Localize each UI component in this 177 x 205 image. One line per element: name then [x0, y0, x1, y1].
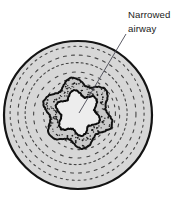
stipple-dot: [55, 118, 56, 119]
stipple-dot: [82, 139, 84, 141]
stipple-dot: [53, 101, 55, 103]
stipple-dot: [80, 82, 81, 83]
stipple-dot: [103, 120, 105, 122]
stipple-dot: [89, 88, 90, 89]
stipple-dot: [64, 95, 65, 96]
stipple-dot: [104, 90, 105, 91]
stipple-dot: [77, 137, 79, 139]
stipple-dot: [53, 108, 54, 109]
stipple-dot: [97, 94, 99, 96]
stipple-dot: [97, 111, 98, 112]
stipple-dot: [47, 105, 48, 106]
stipple-dot: [79, 138, 81, 140]
stipple-dot: [47, 99, 49, 101]
stipple-dot: [109, 125, 111, 127]
stipple-dot: [67, 85, 68, 86]
stipple-dot: [53, 109, 55, 111]
stipple-dot: [76, 83, 78, 85]
stipple-dot: [67, 88, 69, 90]
stipple-dot: [49, 108, 50, 109]
stipple-dot: [101, 121, 103, 123]
stipple-dot: [84, 146, 85, 147]
stipple-dot: [103, 108, 105, 110]
stipple-dot: [75, 137, 77, 139]
stipple-dot: [93, 131, 94, 132]
stipple-dot: [107, 117, 109, 119]
narrowed-airway-label-line2: airway: [128, 23, 156, 34]
stipple-dot: [102, 96, 104, 98]
stipple-dot: [64, 92, 65, 93]
stipple-dot: [57, 127, 58, 128]
stipple-dot: [62, 90, 63, 91]
stipple-dot: [101, 94, 103, 96]
stipple-dot: [87, 138, 89, 140]
stipple-dot: [67, 91, 69, 93]
stipple-dot: [51, 123, 52, 124]
stipple-dot: [57, 122, 59, 124]
stipple-dot: [50, 106, 51, 107]
stipple-dot: [98, 125, 99, 126]
stipple-dot: [86, 89, 87, 90]
stipple-dot: [102, 98, 104, 100]
stipple-dot: [52, 129, 53, 130]
stipple-dot: [51, 107, 53, 109]
stipple-dot: [101, 127, 102, 128]
stipple-dot: [66, 95, 67, 96]
stipple-dot: [91, 129, 93, 131]
stipple-dot: [73, 82, 75, 84]
stipple-dot: [61, 134, 62, 135]
figure-container: Narrowed airway: [0, 0, 177, 205]
stipple-dot: [104, 118, 106, 120]
stipple-dot: [87, 94, 89, 96]
stipple-dot: [53, 131, 54, 132]
stipple-dot: [101, 116, 103, 118]
stipple-dot: [83, 138, 84, 139]
stipple-dot: [59, 135, 60, 136]
stipple-dot: [55, 116, 57, 118]
stipple-dot: [68, 80, 70, 82]
stipple-dot: [49, 125, 51, 127]
stipple-dot: [96, 127, 97, 128]
stipple-dot: [97, 131, 99, 133]
stipple-dot: [88, 92, 89, 93]
stipple-dot: [56, 134, 58, 136]
stipple-dot: [102, 104, 103, 105]
stipple-dot: [66, 135, 68, 137]
stipple-dot: [102, 92, 103, 93]
stipple-dot: [82, 145, 83, 146]
stipple-dot: [70, 138, 72, 140]
stipple-dot: [70, 88, 71, 89]
stipple-dot: [102, 108, 103, 109]
stipple-dot: [54, 99, 55, 100]
stipple-dot: [65, 86, 67, 88]
stipple-dot: [45, 104, 47, 106]
stipple-dot: [55, 112, 57, 114]
stipple-dot: [55, 99, 57, 101]
stipple-dot: [101, 88, 103, 90]
stipple-dot: [71, 135, 73, 137]
stipple-dot: [91, 93, 92, 94]
stipple-dot: [73, 87, 74, 88]
stipple-dot: [90, 138, 92, 140]
stipple-dot: [85, 140, 86, 141]
stipple-dot: [109, 124, 110, 125]
stipple-dot: [61, 96, 62, 97]
stipple-dot: [104, 124, 105, 125]
stipple-dot: [96, 91, 98, 93]
stipple-dot: [100, 102, 102, 104]
stipple-dot: [69, 87, 70, 88]
airway-cross-section-figure: Narrowed airway: [0, 0, 177, 205]
stipple-dot: [94, 127, 95, 128]
stipple-dot: [71, 86, 72, 87]
stipple-dot: [82, 86, 83, 87]
stipple-dot: [55, 114, 56, 115]
stipple-dot: [81, 90, 83, 92]
stipple-dot: [52, 122, 53, 123]
stipple-dot: [59, 97, 61, 99]
stipple-dot: [78, 83, 80, 85]
narrowed-airway-label-line1: Narrowed: [128, 9, 170, 20]
stipple-dot: [56, 119, 58, 121]
stipple-dot: [75, 140, 77, 142]
stipple-dot: [67, 93, 68, 94]
stipple-dot: [47, 108, 49, 110]
